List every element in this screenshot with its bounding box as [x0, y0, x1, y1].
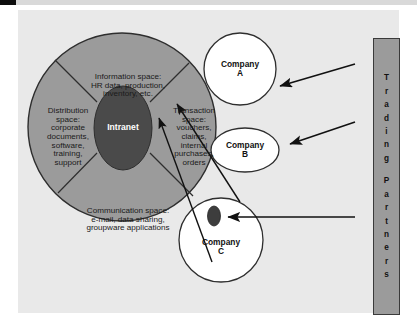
trading-partners-letter: n [384, 228, 389, 241]
company-a-shape [204, 33, 276, 105]
trading-partners-letter: r [385, 201, 388, 214]
trading-partners-letter: n [384, 138, 389, 151]
trading-partners-letter: d [384, 112, 389, 125]
trading-partners-letter: r [385, 255, 388, 268]
screenshot-root: Information space: HR data, production, … [0, 0, 417, 334]
trading-partners-letter: a [384, 98, 389, 111]
trading-partners-letter: i [385, 125, 387, 138]
arrow-partners-to-company-a [280, 64, 355, 86]
trading-partners-bar: Trading Partners [373, 38, 400, 315]
trading-partners-letter: P [384, 174, 389, 187]
trading-partners-letter: a [384, 188, 389, 201]
trading-partners-letter: e [384, 241, 389, 254]
top-left-black-marker [0, 0, 16, 5]
trading-partners-letter: g [384, 152, 389, 165]
company-b-shape [211, 128, 279, 172]
intranet-diagram [18, 10, 399, 313]
top-gray-band [16, 0, 417, 5]
trading-partners-letter: s [384, 268, 389, 281]
trading-partners-letter: T [384, 71, 389, 84]
diagram-panel: Information space: HR data, production, … [18, 10, 399, 313]
arrow-partners-to-company-b [290, 122, 355, 144]
company-c-shape [179, 198, 263, 282]
trading-partners-letter: t [385, 215, 388, 228]
company-c-inner-dot-shape [208, 206, 221, 226]
trading-partners-word-trading: Trading [384, 71, 389, 165]
trading-partners-letter: r [385, 85, 388, 98]
intranet-ellipse-shape [94, 86, 152, 170]
trading-partners-word-partners: Partners [384, 174, 389, 281]
